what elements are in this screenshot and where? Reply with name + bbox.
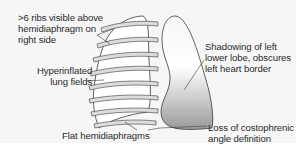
label-ribs-visible: >6 ribs visible above hemidiaphragm on r…	[18, 12, 103, 46]
label-hyperinflated-lung-fields: Hyperinflated lung fields	[37, 65, 92, 87]
label-flat-hemidiaphragms: Flat hemidiaphragms	[62, 130, 150, 141]
label-costophrenic-angle-loss: Loss of costophrenic angle definition	[208, 122, 294, 144]
label-left-lower-lobe-shadowing: Shadowing of left lower lobe, obscures l…	[205, 41, 291, 75]
